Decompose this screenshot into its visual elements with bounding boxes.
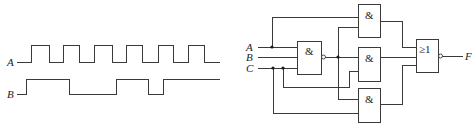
junction-dot [270, 45, 273, 48]
nand-gate: & [298, 42, 326, 75]
junction-dot [336, 55, 339, 58]
signal-label-b: B [7, 88, 14, 100]
gate-symbol: & [305, 45, 314, 57]
gate-symbol: & [365, 9, 374, 21]
wire-bot-and-out [380, 65, 416, 104]
wire-nand-to-bot-and [338, 57, 358, 99]
and-gate-middle: & [359, 48, 381, 82]
inversion-bubble-icon [322, 55, 326, 59]
gate-symbol: ≥1 [419, 43, 431, 55]
and-gate-bottom: & [359, 89, 381, 123]
inversion-bubble-icon [439, 54, 443, 58]
and-gate-top: & [359, 5, 381, 38]
gate-symbol: & [365, 93, 374, 105]
timing-diagram: A B [6, 46, 220, 101]
output-label-f: F [464, 50, 472, 62]
waveform-b [17, 80, 220, 95]
junction-dot [271, 66, 274, 69]
waveform-a [17, 46, 220, 63]
nor-gate: ≥1 [417, 40, 443, 73]
signal-label-a: A [6, 56, 14, 68]
figure: A B A B C [0, 0, 475, 136]
logic-circuit: A B C [245, 5, 472, 123]
junction-dot [281, 66, 284, 69]
wire-nand-to-top-and [338, 27, 358, 57]
input-label-c: C [246, 62, 254, 74]
wire-top-and-out [380, 21, 416, 47]
gate-symbol: & [365, 52, 374, 64]
